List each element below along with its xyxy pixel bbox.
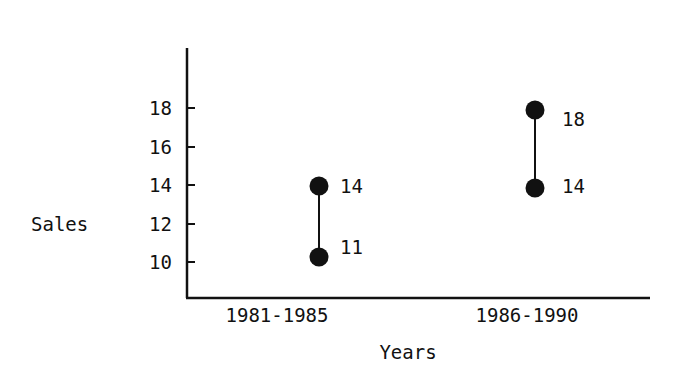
y-tick-14: 14: [149, 174, 172, 196]
x-category-1986-1990: 1986-1990: [476, 304, 579, 326]
point-low: [526, 179, 545, 198]
x-axis-label: Years: [379, 341, 436, 363]
point-label-1981-high: 14: [340, 175, 363, 197]
dumbbell-chart: 18 16 14 12 10 Sales 14 11 18 14 1981-19…: [0, 0, 676, 378]
point-high: [310, 177, 329, 196]
point-label-1986-low: 14: [562, 175, 585, 197]
dumbbell-1986-1990: [526, 101, 545, 198]
y-tick-16: 16: [149, 136, 172, 158]
point-label-1986-high: 18: [562, 108, 585, 130]
point-label-1981-low: 11: [340, 236, 363, 258]
y-axis-label: Sales: [31, 213, 88, 235]
point-low: [310, 248, 329, 267]
y-tick-18: 18: [149, 97, 172, 119]
x-category-1981-1985: 1981-1985: [226, 304, 329, 326]
dumbbell-1981-1985: [310, 177, 329, 267]
y-tick-12: 12: [149, 213, 172, 235]
y-tick-10: 10: [149, 251, 172, 273]
point-high: [526, 101, 545, 120]
